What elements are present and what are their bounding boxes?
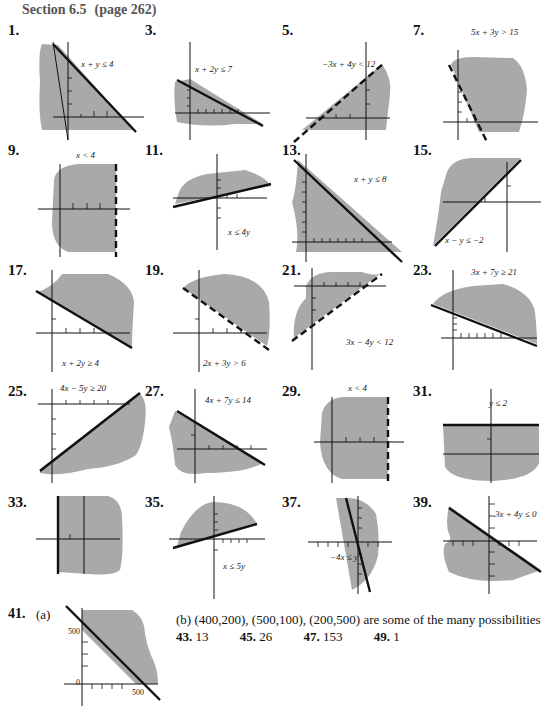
problem-number: 21. [282,262,301,279]
graph-problem-37: 37. −4x ≤ y [282,494,417,619]
inequality-label: 5x + 3y > 15 [471,27,518,37]
inequality-label: x − y ≤ −2 [445,235,484,245]
answer-item: 45. 26 [240,629,273,645]
inequality-graph [413,383,548,488]
graph-problem-5: 5. −3x + 4y < 12 [282,22,417,147]
answer-item: 47. 153 [304,629,343,645]
problem-number: 3. [145,22,156,39]
answer-number: 47. [304,629,320,644]
answer-number: 43. [176,629,192,644]
problem-number: 15. [413,142,432,159]
inequality-label: x < 4 [348,383,367,393]
graph-problem-25: 25. 4x − 5y ≥ 20 [8,383,143,508]
inequality-graph [413,22,548,132]
inequality-graph [8,22,143,132]
inequality-graph [8,262,143,372]
graph-problem-23: 23. 3x + 7y ≥ 21 [413,262,548,387]
graph-problem-27: 27. 4x + 7y ≤ 14 [145,383,280,508]
inequality-label: 2x + 3y > 6 [203,358,246,368]
problem-number: 39. [413,494,432,511]
inequality-label: 3x + 7y ≥ 21 [471,267,517,277]
inequality-graph [413,262,548,372]
short-answers-row: 43. 13 45. 26 47. 153 49. 1 [176,629,541,645]
inequality-graph [8,383,143,488]
answer-value: 1 [393,629,400,644]
problem-number: 17. [8,262,27,279]
problem-number: 29. [282,383,301,400]
graph-problem-31: 31. y ≤ 2 [413,383,548,508]
inequality-label: x + 2y ≥ 4 [62,358,99,368]
problem-number: 11. [145,142,163,159]
graph-problem-39: 39. 3x + 4y ≤ 0 [413,494,548,619]
answer-number: 49. [374,629,390,644]
answer-item: 43. 13 [176,629,209,645]
inequality-label: −4x ≤ y [330,552,358,562]
problem-number: 25. [8,383,27,400]
inequality-graph [282,383,417,488]
problem-number: 1. [8,22,19,39]
problem-number: 13. [282,142,301,159]
answer-number: 45. [240,629,256,644]
inequality-label: 4x + 7y ≤ 14 [205,395,251,405]
inequality-label: x + y ≤ 8 [354,174,387,184]
problem-number: 35. [145,494,164,511]
inequality-graph [282,142,417,257]
answer-41b: (b) (400,200), (500,100), (200,500) are … [176,612,541,628]
graph-problem-15: 15. x − y ≤ −2 [413,142,548,267]
inequality-graph [8,494,143,604]
graph-problem-33: 33. [8,494,143,619]
inequality-graph [282,22,417,132]
problem-number: 23. [413,262,432,279]
inequality-graph [145,142,280,257]
text-answers: (b) (400,200), (500,100), (200,500) are … [176,612,541,645]
graph-problem-35: 35. x ≤ 5y [145,494,280,619]
inequality-label: 4x − 5y ≥ 20 [60,383,106,393]
inequality-label: x + y ≤ 4 [81,59,114,69]
inequality-label: x ≤ 4y [228,227,250,237]
graph-problem-11: 11. x ≤ 4y [145,142,280,267]
answer-value: 13 [196,629,209,644]
inequality-label: 3x + 4y ≤ 0 [495,509,537,519]
answer-value: 26 [259,629,272,644]
graph-problem-9: 9. x < 4 [8,142,143,267]
graph-problem-29: 29. x < 4 [282,383,417,508]
inequality-label: x < 4 [76,150,95,160]
problem-number: 33. [8,494,27,511]
inequality-graph [145,22,280,132]
problem-number: 27. [145,383,164,400]
graph-problem-1: 1. x + y ≤ 4 [8,22,143,147]
graph-problem-21: 21. 3x − 4y < 12 [282,262,417,387]
section-heading: Section 6.5(page 262) [22,2,156,18]
inequality-label: y ≤ 2 [489,398,507,408]
problem-number: 9. [8,142,19,159]
problem-number: 37. [282,494,301,511]
inequality-graph [8,606,178,723]
problem-number: 5. [282,22,293,39]
page-reference: (page 262) [95,2,157,17]
graph-problem-7: 7. 5x + 3y > 15 [413,22,548,147]
graph-problem-17: 17. x + 2y ≥ 4 [8,262,143,387]
inequality-label: x + 2y ≤ 7 [195,64,232,74]
graph-problem-13: 13. x + y ≤ 8 [282,142,417,267]
inequality-graph [145,494,280,604]
answer-value: 153 [323,629,343,644]
problem-number: 7. [413,22,424,39]
y-axis-label: 500 [68,627,80,636]
origin-label: 0 [76,678,80,687]
problem-number: 31. [413,383,432,400]
graph-problem-3: 3. x + 2y ≤ 7 [145,22,280,147]
inequality-label: 3x − 4y < 12 [346,337,393,347]
x-axis-label: 500 [132,688,144,697]
graph-problem-19: 19. 2x + 3y > 6 [145,262,280,387]
inequality-graph [145,262,280,372]
inequality-graph [282,494,417,604]
problem-number: 19. [145,262,164,279]
answer-item: 49. 1 [374,629,400,645]
inequality-label: −3x + 4y < 12 [322,59,375,69]
section-title: Section 6.5 [22,2,87,17]
inequality-graph [282,262,417,372]
inequality-label: x ≤ 5y [223,561,245,571]
graph-problem-41: 41. (a) 500 500 0 [8,606,178,723]
